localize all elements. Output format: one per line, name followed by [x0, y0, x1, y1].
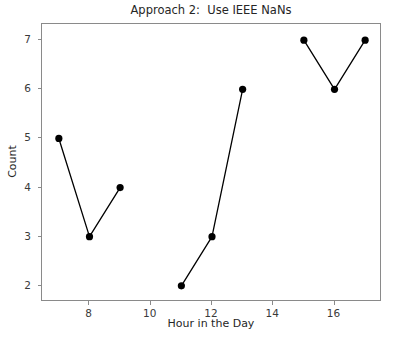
y-tick-mark	[38, 236, 42, 237]
figure-canvas: Approach 2: Use IEEE NaNs 234567 8101214…	[0, 0, 395, 339]
y-tick-mark	[38, 285, 42, 286]
x-tick-mark	[211, 301, 212, 305]
y-tick-label: 6	[5, 82, 31, 94]
data-point-marker	[331, 86, 338, 93]
y-tick-mark	[38, 187, 42, 188]
data-point-marker	[117, 184, 124, 191]
data-point-marker	[86, 233, 93, 240]
data-point-marker	[362, 37, 369, 44]
plot-area	[41, 23, 381, 301]
data-point-marker	[55, 135, 62, 142]
y-tick-mark	[38, 88, 42, 89]
y-tick-label: 2	[5, 279, 31, 291]
y-tick-mark	[38, 137, 42, 138]
y-axis-label: Count	[6, 122, 19, 202]
y-tick-mark	[38, 39, 42, 40]
x-tick-mark	[150, 301, 151, 305]
x-tick-mark	[334, 301, 335, 305]
data-point-marker	[208, 233, 215, 240]
series-line-segment	[59, 138, 120, 236]
data-point-marker	[300, 37, 307, 44]
plot-lines-svg	[42, 24, 382, 302]
series-line-segment	[181, 89, 242, 285]
x-axis-label: Hour in the Day	[41, 317, 381, 330]
series-line-segment	[304, 40, 365, 89]
x-tick-mark	[88, 301, 89, 305]
y-tick-label: 7	[5, 33, 31, 45]
data-point-marker	[239, 86, 246, 93]
chart-title: Approach 2: Use IEEE NaNs	[41, 3, 381, 17]
data-point-marker	[178, 282, 185, 289]
y-tick-label: 3	[5, 230, 31, 242]
x-tick-mark	[272, 301, 273, 305]
